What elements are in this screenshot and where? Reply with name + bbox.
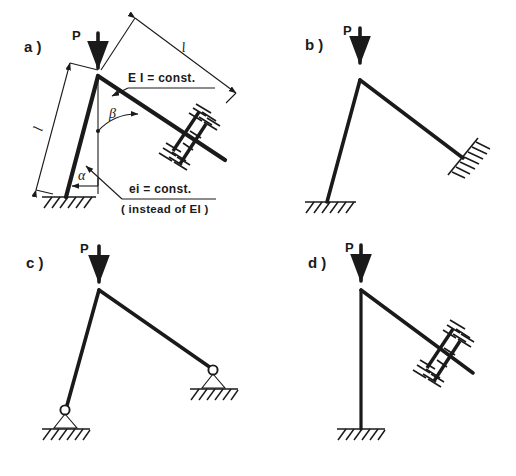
- panel-c-column: [66, 290, 99, 409]
- panel-d-label: d ): [308, 254, 326, 271]
- panel-a-column-stiffness-note: ei = const. ( instead of EI ): [86, 166, 216, 215]
- panel-d-load-label: P: [345, 240, 354, 255]
- panel-c-pin-support-left: [42, 405, 90, 440]
- figure-canvas: a ) P: [0, 0, 516, 476]
- panel-b: b ) P: [305, 23, 490, 213]
- panel-c-label: c ): [26, 254, 44, 271]
- panel-a-beam-stiffness-label: E I = const.: [128, 71, 195, 85]
- panel-b-inclined-fixed-support: [448, 138, 490, 178]
- panel-d-guided-support: [413, 320, 474, 387]
- panel-a-column-stiffness-note-label: ( instead of EI ): [121, 203, 209, 215]
- panel-a-label: a ): [24, 38, 42, 55]
- panel-c: c ) P: [26, 241, 238, 440]
- panel-a-fixed-support: [42, 197, 96, 208]
- panel-a-column-stiffness-label: ei = const.: [129, 182, 191, 196]
- panel-a-alpha-label: α: [78, 168, 86, 183]
- panel-a-beam-stiffness-note: E I = const.: [112, 71, 215, 96]
- panel-a-alpha-dimension: α: [72, 168, 98, 194]
- panel-b-label: b ): [305, 36, 323, 53]
- panel-a-beta-label: β: [108, 106, 116, 121]
- panel-a-beam-length-label: l: [181, 40, 187, 55]
- panel-b-beam: [360, 80, 463, 158]
- panel-a-load-label: P: [72, 28, 81, 43]
- panel-d: d ) P: [308, 240, 474, 440]
- panel-a-beta-arc: [98, 114, 138, 131]
- panel-b-fixed-support: [305, 202, 356, 213]
- panel-a-column-dimension: l: [30, 63, 98, 194]
- panel-c-beam: [99, 290, 211, 368]
- panel-d-fixed-support: [337, 429, 385, 440]
- panel-a-beta-origin-dot: [96, 129, 100, 133]
- panel-c-load-label: P: [80, 241, 89, 256]
- panel-a: a ) P: [24, 18, 236, 215]
- panel-b-load-label: P: [343, 23, 352, 38]
- panel-a-column-length-label: l: [30, 125, 46, 133]
- panel-b-column: [327, 80, 360, 202]
- panel-c-pin-support-right: [190, 365, 238, 400]
